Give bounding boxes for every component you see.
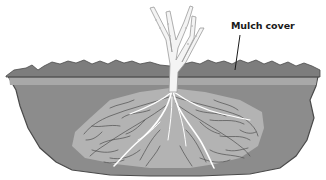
mulch-layer: [6, 60, 320, 77]
mulch-soil-band: [9, 77, 317, 85]
mulch-cover-label: Mulch cover: [231, 20, 295, 31]
